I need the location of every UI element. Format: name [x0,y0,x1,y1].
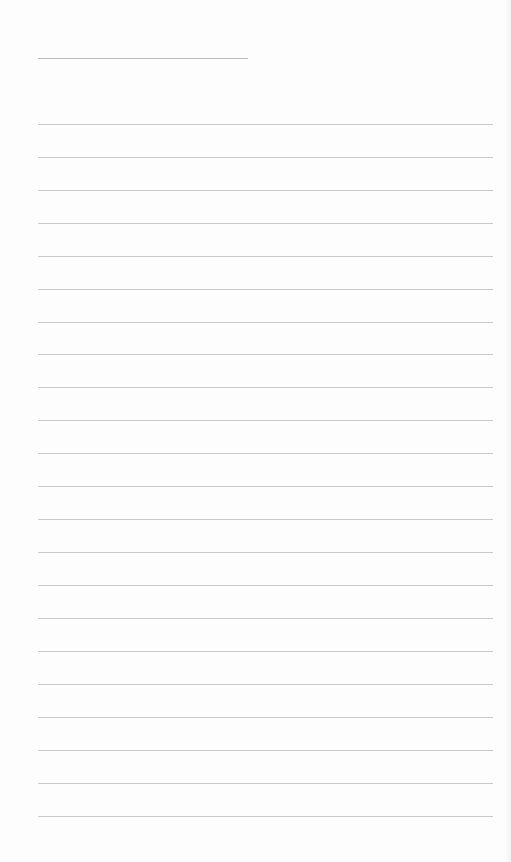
ruled-line [38,190,493,191]
ruled-line [38,124,493,125]
ruled-line [38,519,493,520]
ruled-line [38,322,493,323]
ruled-line [38,256,493,257]
ruled-line [38,354,493,355]
ruled-line [38,717,493,718]
ruled-line [38,783,493,784]
ruled-line [38,684,493,685]
header-title-line [38,58,248,59]
ruled-line [38,816,493,817]
ruled-line [38,157,493,158]
ruled-line [38,223,493,224]
ruled-line [38,486,493,487]
ruled-line [38,420,493,421]
ruled-line [38,585,493,586]
ruled-line [38,750,493,751]
ruled-line [38,453,493,454]
ruled-line [38,387,493,388]
ruled-line [38,552,493,553]
lined-paper-page [0,0,511,862]
ruled-line [38,618,493,619]
ruled-line [38,651,493,652]
ruled-line [38,289,493,290]
page-edge-shadow [505,0,511,862]
